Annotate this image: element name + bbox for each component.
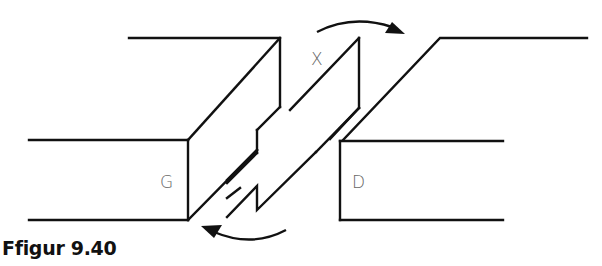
rotation-arrow-top-icon <box>317 22 405 34</box>
right-upper-panel <box>330 38 587 140</box>
rotation-arrow-bottom-icon <box>201 225 286 240</box>
left-upper-panel <box>129 38 280 140</box>
label-x: X <box>311 49 323 69</box>
label-d: D <box>352 172 365 192</box>
sliding-panel <box>188 38 359 220</box>
panel-sliding-diagram <box>0 0 602 266</box>
figure-caption: Ffigur 9.40 <box>2 237 116 259</box>
label-g: G <box>160 172 173 192</box>
